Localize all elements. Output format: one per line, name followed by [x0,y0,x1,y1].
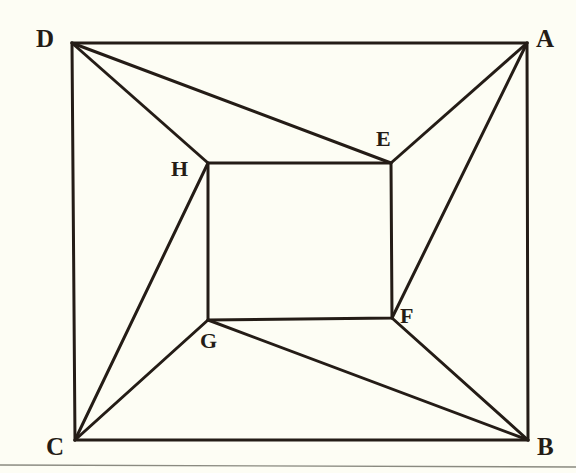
vertex-label-d: D [36,26,54,51]
vertex-label-e: E [376,128,391,150]
vertex-label-a: A [536,26,554,51]
vertex-label-c: C [46,434,64,459]
vertex-label-f: F [400,305,413,327]
geometry-figure-canvas [0,0,576,473]
figure-background [0,0,576,473]
vertex-label-b: B [537,434,554,459]
vertex-label-g: G [200,330,217,352]
vertex-label-h: H [171,158,188,180]
